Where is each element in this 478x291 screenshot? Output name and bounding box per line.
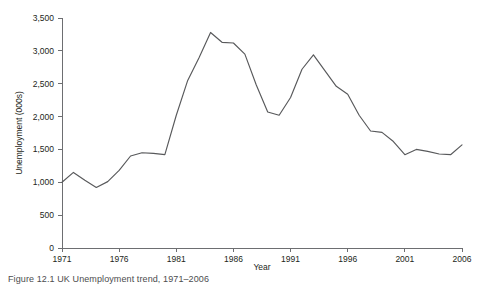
y-tick-label: 2,500: [33, 79, 55, 89]
x-tick-label: 1996: [338, 254, 357, 264]
x-tick-label: 2006: [453, 254, 472, 264]
y-tick-label: 3,500: [33, 13, 55, 23]
unemployment-line-series: [62, 32, 462, 187]
y-tick-label: 2,000: [33, 112, 55, 122]
figure-container: 05001,0001,5002,0002,5003,0003,500 19711…: [0, 0, 478, 291]
line-chart-svg: 05001,0001,5002,0002,5003,0003,500 19711…: [0, 0, 478, 272]
x-tick-label: 1981: [167, 254, 186, 264]
y-tick-label: 0: [49, 243, 54, 253]
x-tick-label: 1986: [224, 254, 243, 264]
data-series-group: [62, 32, 462, 187]
x-tick-label: 1976: [110, 254, 129, 264]
y-tick-label: 500: [40, 210, 54, 220]
figure-caption-bar: Figure 12.1 UK Unemployment trend, 1971–…: [0, 274, 478, 291]
x-tick-label: 2001: [395, 254, 414, 264]
y-tick-label: 3,000: [33, 46, 55, 56]
x-tick-label: 1971: [53, 254, 72, 264]
y-axis-ticks: 05001,0001,5002,0002,5003,0003,500: [33, 13, 62, 253]
x-tick-label: 1991: [281, 254, 300, 264]
y-tick-label: 1,000: [33, 177, 55, 187]
y-axis-title: Unemployment (000s): [14, 91, 24, 175]
y-tick-label: 1,500: [33, 144, 55, 154]
axes-group: [62, 18, 462, 248]
chart-plot-area: 05001,0001,5002,0002,5003,0003,500 19711…: [0, 0, 478, 272]
figure-caption: Figure 12.1 UK Unemployment trend, 1971–…: [8, 274, 209, 284]
x-axis-title: Year: [253, 262, 270, 272]
